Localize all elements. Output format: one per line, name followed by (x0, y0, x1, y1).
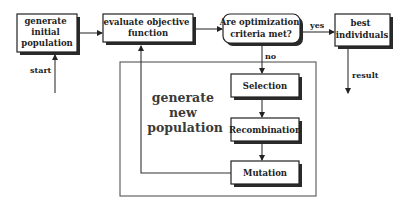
node-mutation: Mutation (231, 161, 302, 187)
yes-label: yes (309, 20, 325, 30)
svg-text:Recombination: Recombination (229, 125, 301, 135)
start-label: start (30, 65, 52, 75)
node-selection: Selection (231, 74, 302, 100)
node-recombination: Recombination (229, 118, 302, 144)
node-criteria-decision: Are optimization criteria met? (219, 14, 303, 46)
node-best-individuals: best individuals (335, 14, 393, 49)
node-generate-initial-population: generate initial population (17, 14, 80, 55)
svg-text:Selection: Selection (243, 81, 287, 91)
no-label: no (265, 51, 277, 61)
result-label: result (352, 70, 379, 80)
genetic-algorithm-flowchart: generate new population generate initial… (0, 0, 409, 205)
group-label: generate new population (147, 90, 223, 135)
svg-text:Mutation: Mutation (243, 168, 287, 178)
node-evaluate-objective-function: evaluate objective function (103, 14, 196, 45)
